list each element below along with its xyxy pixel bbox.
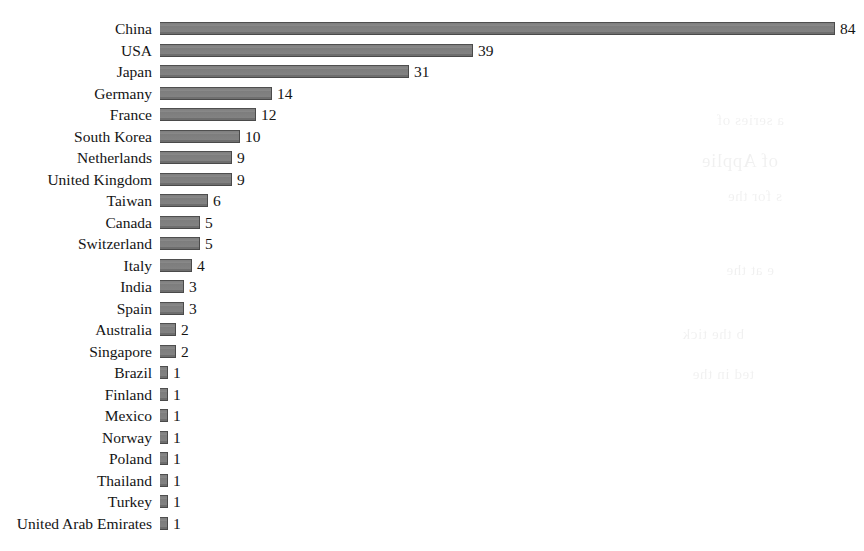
bar-value-label: 2 — [176, 343, 189, 360]
bar-rect — [160, 452, 168, 465]
bar-row: Canada5 — [0, 212, 864, 233]
bar-row: Australia2 — [0, 319, 864, 340]
bar-track: 5 — [160, 212, 864, 233]
bar-track: 12 — [160, 104, 864, 125]
bar-row: Finland1 — [0, 384, 864, 405]
bar-track: 6 — [160, 190, 864, 211]
bar-rect — [160, 237, 200, 250]
bar-track: 9 — [160, 169, 864, 190]
bar-track: 39 — [160, 40, 864, 61]
bar-value-label: 5 — [200, 214, 213, 231]
category-label: USA — [0, 42, 160, 59]
bar-rect — [160, 87, 272, 100]
category-label: Poland — [0, 450, 160, 467]
category-label: Finland — [0, 386, 160, 403]
category-label: Norway — [0, 429, 160, 446]
bar-track: 31 — [160, 61, 864, 82]
bar-row: USA39 — [0, 40, 864, 61]
category-label: China — [0, 20, 160, 37]
bar-track: 1 — [160, 491, 864, 512]
bar-row: South Korea10 — [0, 126, 864, 147]
bar-row: Taiwan6 — [0, 190, 864, 211]
bar-rect — [160, 259, 192, 272]
bar-track: 1 — [160, 362, 864, 383]
bar-track: 1 — [160, 427, 864, 448]
bar-row: Netherlands9 — [0, 147, 864, 168]
bar-rect — [160, 280, 184, 293]
bar-track: 2 — [160, 341, 864, 362]
bar-value-label: 2 — [176, 321, 189, 338]
bar-rect — [160, 388, 168, 401]
bar-row: Singapore2 — [0, 341, 864, 362]
bar-track: 5 — [160, 233, 864, 254]
bar-value-label: 1 — [168, 515, 181, 532]
horizontal-bar-chart: China84USA39Japan31Germany14France12Sout… — [0, 0, 864, 551]
bar-rect — [160, 22, 835, 35]
bar-track: 4 — [160, 255, 864, 276]
bar-value-label: 10 — [240, 128, 261, 145]
bar-value-label: 1 — [168, 472, 181, 489]
bar-value-label: 1 — [168, 429, 181, 446]
bar-row: Poland1 — [0, 448, 864, 469]
category-label: Canada — [0, 214, 160, 231]
bar-track: 1 — [160, 513, 864, 534]
bar-rect — [160, 431, 168, 444]
bar-row: Italy4 — [0, 255, 864, 276]
bar-row: Germany14 — [0, 83, 864, 104]
bar-rect — [160, 366, 168, 379]
bar-value-label: 31 — [409, 63, 430, 80]
category-label: Switzerland — [0, 235, 160, 252]
bar-track: 1 — [160, 384, 864, 405]
bar-track: 3 — [160, 298, 864, 319]
bar-track: 14 — [160, 83, 864, 104]
category-label: Germany — [0, 85, 160, 102]
category-label: India — [0, 278, 160, 295]
bar-track: 1 — [160, 405, 864, 426]
bar-row: India3 — [0, 276, 864, 297]
bar-row: France12 — [0, 104, 864, 125]
bar-track: 3 — [160, 276, 864, 297]
bar-row: Spain3 — [0, 298, 864, 319]
bar-rect — [160, 173, 232, 186]
bar-track: 10 — [160, 126, 864, 147]
bar-row: Japan31 — [0, 61, 864, 82]
bar-rect — [160, 323, 176, 336]
bar-rect — [160, 216, 200, 229]
bar-value-label: 1 — [168, 364, 181, 381]
bar-row: Norway1 — [0, 427, 864, 448]
bar-rect — [160, 44, 473, 57]
category-label: Mexico — [0, 407, 160, 424]
category-label: Taiwan — [0, 192, 160, 209]
bar-rect — [160, 194, 208, 207]
bar-value-label: 3 — [184, 278, 197, 295]
bar-value-label: 6 — [208, 192, 221, 209]
bar-value-label: 9 — [232, 149, 245, 166]
bar-value-label: 5 — [200, 235, 213, 252]
bar-rect — [160, 108, 256, 121]
bar-value-label: 14 — [272, 85, 293, 102]
category-label: Australia — [0, 321, 160, 338]
category-label: United Kingdom — [0, 171, 160, 188]
category-label: Italy — [0, 257, 160, 274]
bar-row: Thailand1 — [0, 470, 864, 491]
category-label: Brazil — [0, 364, 160, 381]
bar-value-label: 1 — [168, 386, 181, 403]
bar-row: Mexico1 — [0, 405, 864, 426]
category-label: Japan — [0, 63, 160, 80]
category-label: Netherlands — [0, 149, 160, 166]
bar-value-label: 4 — [192, 257, 205, 274]
bar-track: 9 — [160, 147, 864, 168]
bar-rect — [160, 302, 184, 315]
bar-value-label: 12 — [256, 106, 277, 123]
bar-track: 84 — [160, 18, 864, 39]
bar-rect — [160, 65, 409, 78]
bar-value-label: 9 — [232, 171, 245, 188]
bar-row: Switzerland5 — [0, 233, 864, 254]
category-label: Singapore — [0, 343, 160, 360]
bar-rect — [160, 409, 168, 422]
bar-value-label: 84 — [835, 20, 856, 37]
category-label: Thailand — [0, 472, 160, 489]
bar-rect — [160, 517, 168, 530]
bar-row: China84 — [0, 18, 864, 39]
bar-track: 1 — [160, 470, 864, 491]
